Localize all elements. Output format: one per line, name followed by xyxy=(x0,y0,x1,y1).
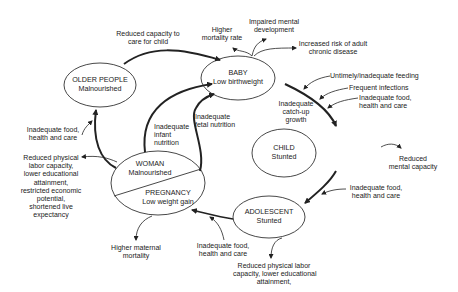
arrow-higher-mortality xyxy=(233,48,252,56)
label-line: lower educational xyxy=(18,170,84,178)
label-line: health and care xyxy=(346,192,406,200)
label-line: Reduced physical labor xyxy=(233,262,315,270)
node-older-people-label: OLDER PEOPLE Malnourished xyxy=(64,76,136,93)
child-subtitle: Stunted xyxy=(252,153,316,162)
label-line: Reduced physical xyxy=(18,154,84,162)
arrow-child-food xyxy=(328,98,358,108)
label-line: development xyxy=(244,26,304,34)
label-line: catch-up xyxy=(276,108,316,116)
label-line: Inadequate xyxy=(154,123,189,131)
pregnancy-subtitle: Low weight gain xyxy=(134,198,202,207)
label-line: nutrition xyxy=(154,139,189,147)
label-line: Impaired mental xyxy=(244,18,304,26)
arrow-adolescent-outcome xyxy=(271,238,282,258)
arrow-older-food xyxy=(82,121,92,135)
arrow-woman-to-older xyxy=(95,110,116,168)
baby-subtitle: Low birthweight xyxy=(201,78,275,87)
label-reduced-mental: Reduced mental capacity xyxy=(387,155,439,171)
label-line: Inadequate food, xyxy=(24,126,82,134)
label-line: potential, xyxy=(18,195,84,203)
adolescent-subtitle: Stunted xyxy=(233,217,305,226)
arrow-reduced-mental xyxy=(381,144,401,148)
arrow-adolescent-to-pregnancy xyxy=(192,210,233,219)
label-line: capacity, lower educational xyxy=(233,270,315,278)
arrow-untimely-feeding xyxy=(304,76,330,89)
arrow-woman-outcome xyxy=(82,156,117,162)
label-child-food: Inadequate food, health and care xyxy=(359,94,412,110)
label-line: labor capacity, xyxy=(18,162,84,170)
label-maternal-mortality: Higher maternal mortality xyxy=(108,244,164,260)
label-pregnancy-food: Inadequate food, health and care xyxy=(192,242,254,258)
node-woman-label: WOMAN Malnourished xyxy=(120,160,180,177)
label-line: growth xyxy=(276,116,316,124)
label-line: Inadequate food, xyxy=(359,94,412,102)
label-frequent-infections: Frequent infections xyxy=(349,84,409,92)
label-line: fetal nutrition xyxy=(195,121,235,129)
label-line: Inadequate xyxy=(195,113,235,121)
arrow-chronic-disease xyxy=(254,48,296,56)
label-line: Higher maternal xyxy=(108,244,164,252)
label-reduced-care: Reduced capacity to care for child xyxy=(110,30,186,46)
label-line: health and care xyxy=(192,250,254,258)
label-adolescent-food: Inadequate food, health and care xyxy=(346,184,406,200)
label-line: Inadequate food, xyxy=(346,184,406,192)
label-line: health and care xyxy=(24,134,82,142)
label-line: attainment, xyxy=(233,278,315,286)
older-subtitle: Malnourished xyxy=(64,85,136,94)
label-line: attainment, xyxy=(18,179,84,187)
node-child-label: CHILD Stunted xyxy=(252,144,316,161)
label-line: expectancy xyxy=(18,211,84,219)
node-pregnancy-label: PREGNANCY Low weight gain xyxy=(134,189,202,206)
label-line: Inadequate xyxy=(276,100,316,108)
arrow-impaired-mental xyxy=(252,39,266,56)
arrow-maternal-mortality xyxy=(136,216,152,240)
label-line: Inadequate food, xyxy=(192,242,254,250)
label-woman-outcome: Reduced physical labor capacity, lower e… xyxy=(18,154,84,220)
label-older-food: Inadequate food, health and care xyxy=(24,126,82,142)
label-impaired-mental: Impaired mental development xyxy=(244,18,304,34)
label-line: mental capacity xyxy=(387,163,439,171)
arrow-pregnancy-food xyxy=(210,217,224,240)
label-line: restricted economic xyxy=(18,187,84,195)
label-line: chronic disease xyxy=(292,48,374,56)
label-higher-mortality: Higher mortality rate xyxy=(198,26,246,42)
label-line: mortality rate xyxy=(198,34,246,42)
arrow-frequent-infections xyxy=(320,88,348,99)
label-chronic-disease: Increased risk of adult chronic disease xyxy=(292,40,374,56)
arrow-adolescent-food xyxy=(322,189,346,194)
arrow-child-to-adolescent xyxy=(305,171,336,203)
label-line: Increased risk of adult xyxy=(292,40,374,48)
node-baby-label: BABY Low birthweight xyxy=(201,69,275,86)
node-adolescent-label: ADOLESCENT Stunted xyxy=(233,208,305,225)
arrow-pregnancy-to-baby-fetal xyxy=(194,94,214,171)
label-line: Reduced xyxy=(387,155,439,163)
label-catch-up: Inadequate catch-up growth xyxy=(276,100,316,125)
label-line: health and care xyxy=(359,102,412,110)
label-line: Higher xyxy=(198,26,246,34)
label-fetal-nutrition: Inadequate fetal nutrition xyxy=(195,113,235,129)
label-line: shortened live xyxy=(18,203,84,211)
label-line: mortality xyxy=(108,252,164,260)
label-line: care for child xyxy=(110,38,186,46)
label-adolescent-outcome: Reduced physical labor capacity, lower e… xyxy=(233,262,315,287)
label-infant-nutrition: Inadequate infant nutrition xyxy=(154,123,189,148)
arrow-older-to-baby xyxy=(124,50,220,64)
label-line: Reduced capacity to xyxy=(110,30,186,38)
label-untimely-feeding: Untimely/inadequate feeding xyxy=(330,72,419,80)
label-line: infant xyxy=(154,131,189,139)
woman-subtitle: Malnourished xyxy=(120,169,180,178)
